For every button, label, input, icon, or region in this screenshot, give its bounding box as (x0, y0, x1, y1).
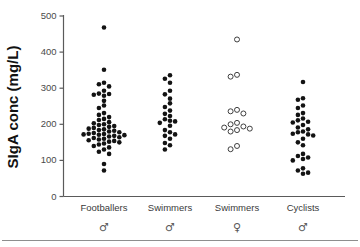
data-point (163, 128, 168, 133)
male-symbol-0: ♂ (99, 221, 109, 234)
data-point (107, 134, 112, 139)
data-point (107, 139, 112, 144)
data-point (97, 118, 102, 123)
data-point (235, 128, 240, 133)
data-point (92, 136, 97, 141)
data-point (163, 112, 168, 117)
data-point (102, 132, 107, 137)
data-point (97, 113, 102, 118)
data-point (102, 88, 107, 93)
series-swimmers-female (222, 37, 253, 152)
data-point (306, 132, 311, 137)
data-point (97, 142, 102, 147)
data-point (228, 74, 233, 79)
data-point (301, 116, 306, 121)
data-point (301, 143, 306, 148)
data-point (102, 99, 107, 104)
data-point (163, 141, 168, 146)
data-point (102, 111, 107, 116)
data-point (112, 134, 117, 139)
data-point (228, 122, 233, 127)
data-point (102, 80, 107, 85)
data-point (102, 67, 107, 72)
data-point (163, 147, 168, 152)
data-point (235, 37, 240, 42)
data-point (97, 132, 102, 137)
y-axis-title-group: SIgA conc (mg/L) (4, 46, 21, 169)
data-point (102, 93, 107, 98)
data-point (92, 121, 97, 126)
data-point (241, 124, 246, 129)
data-point (306, 155, 311, 160)
data-point (291, 131, 296, 136)
data-point (86, 126, 91, 131)
data-point (117, 135, 122, 140)
data-point (97, 106, 102, 111)
data-point (117, 130, 122, 135)
category-label-2: Swimmers (215, 202, 260, 213)
data-point (168, 73, 173, 78)
data-point (86, 138, 91, 143)
data-point (97, 149, 102, 154)
data-point (228, 109, 233, 114)
data-point (107, 145, 112, 150)
data-point (296, 168, 301, 173)
data-point (86, 131, 91, 136)
data-point (163, 117, 168, 122)
data-point (163, 92, 168, 97)
data-point (173, 119, 178, 124)
data-point (168, 114, 173, 119)
data-point (107, 120, 112, 125)
y-tick-label: 100 (41, 154, 57, 165)
data-point (102, 136, 107, 141)
data-point (168, 143, 173, 148)
female-symbol-2: ♀ (233, 221, 241, 234)
data-point (296, 140, 301, 145)
data-point (168, 108, 173, 113)
data-point (235, 143, 240, 148)
category-label-3: Cyclists (287, 202, 320, 213)
data-point (291, 120, 296, 125)
scatter-plot-canvas: 0100200300400500 SIgA conc (mg/L) Footba… (0, 0, 360, 247)
data-point (247, 126, 252, 131)
data-point (112, 124, 117, 129)
data-point (102, 141, 107, 146)
series-footballers-male (81, 25, 126, 173)
data-point (163, 134, 168, 139)
data-point (97, 137, 102, 142)
y-tick-label: 0 (51, 191, 56, 202)
y-tick-label: 300 (41, 82, 57, 93)
male-symbol-1: ♂ (165, 221, 175, 234)
data-point (301, 80, 306, 85)
data-point (296, 118, 301, 123)
data-point (173, 132, 178, 137)
data-point (168, 123, 173, 128)
data-point (102, 25, 107, 30)
category-label-1: Swimmers (148, 202, 193, 213)
data-point (112, 129, 117, 134)
data-point (102, 168, 107, 173)
data-point (102, 122, 107, 127)
data-point (163, 77, 168, 82)
data-point (241, 111, 246, 116)
data-point (301, 129, 306, 134)
data-point (158, 121, 163, 126)
data-point (92, 131, 97, 136)
data-point (291, 158, 296, 163)
data-point (311, 133, 316, 138)
data-point (306, 170, 311, 175)
data-point (301, 157, 306, 162)
category-labels-group: Footballers♂Swimmers♂Swimmers♀Cyclists♂ (81, 202, 320, 234)
data-point (92, 126, 97, 131)
series-cyclists-male (291, 80, 316, 176)
siga-dotplot-figure: 0100200300400500 SIgA conc (mg/L) Footba… (0, 0, 360, 247)
data-point (296, 154, 301, 159)
y-tick-label: 200 (41, 118, 57, 129)
data-point (107, 84, 112, 89)
data-point (296, 106, 301, 111)
data-point (92, 144, 97, 149)
data-point (235, 107, 240, 112)
data-point (235, 120, 240, 125)
data-point (168, 118, 173, 123)
data-point (301, 96, 306, 101)
